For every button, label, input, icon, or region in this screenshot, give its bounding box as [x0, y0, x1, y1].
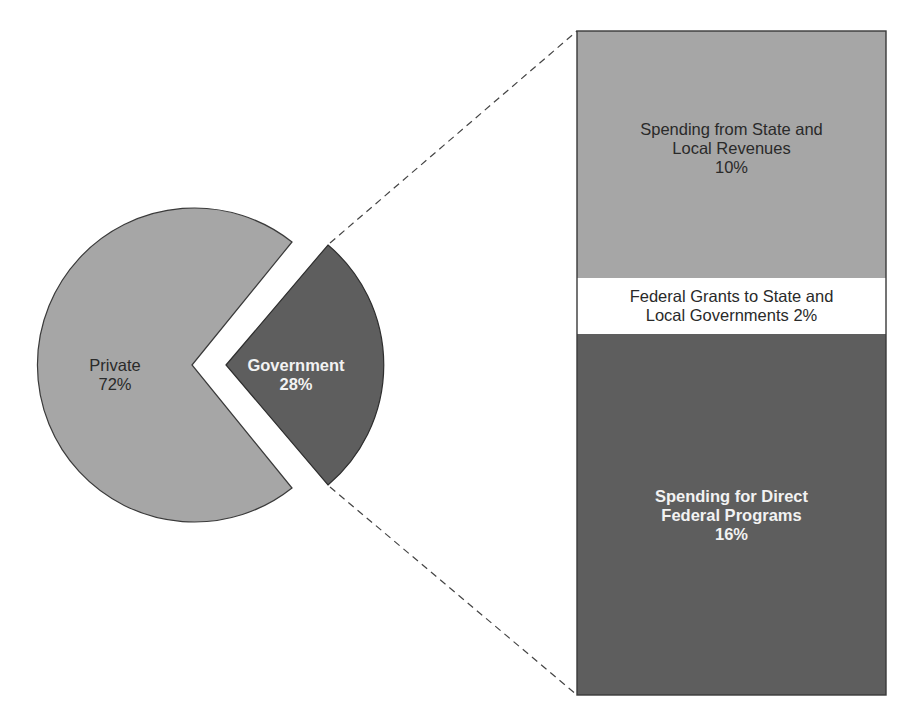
label-private-name: Private — [70, 356, 160, 375]
label-state-local-line1: Spending from State and — [577, 120, 886, 139]
label-federal-grants-line1: Federal Grants to State and — [577, 287, 886, 306]
label-direct-federal: Spending for Direct Federal Programs 16% — [577, 487, 886, 544]
label-state-local-line2: Local Revenues — [577, 139, 886, 158]
label-government-name: Government — [236, 356, 356, 375]
label-direct-federal-line1: Spending for Direct — [577, 487, 886, 506]
label-state-local: Spending from State and Local Revenues 1… — [577, 120, 886, 177]
label-federal-grants-line2: Local Governments 2% — [577, 306, 886, 325]
connector-line-top — [330, 31, 577, 243]
connector-line-bottom — [330, 487, 577, 695]
label-government: Government 28% — [236, 356, 356, 394]
label-direct-federal-value: 16% — [577, 525, 886, 544]
label-direct-federal-line2: Federal Programs — [577, 506, 886, 525]
label-government-value: 28% — [236, 375, 356, 394]
label-private-value: 72% — [70, 375, 160, 394]
label-federal-grants: Federal Grants to State and Local Govern… — [577, 287, 886, 325]
label-private: Private 72% — [70, 356, 160, 394]
label-state-local-value: 10% — [577, 158, 886, 177]
